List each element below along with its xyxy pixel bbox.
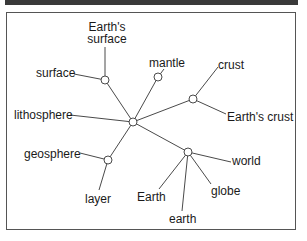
crust-node <box>189 95 197 103</box>
label-earth: earth <box>169 213 196 225</box>
edge-hub-geosphere <box>108 122 133 160</box>
label-earths-surface-line2: surface <box>84 33 130 45</box>
edge-geosphere-layer <box>99 160 108 190</box>
edge-hub-mantle <box>133 77 158 122</box>
edge-hub-lithosphere <box>70 115 133 122</box>
edge-earth-Earth <box>159 152 188 189</box>
label-layer: layer <box>85 193 111 205</box>
label-earths-crust: Earth's crust <box>227 111 293 123</box>
label-earths-surface: Earth's surface <box>84 21 130 45</box>
label-geosphere: geosphere <box>24 148 81 160</box>
label-crust: crust <box>218 59 244 71</box>
edge-hub-earth <box>133 122 188 152</box>
hub-node <box>129 118 137 126</box>
label-world: world <box>232 155 261 167</box>
edge-hub-crust <box>133 99 193 122</box>
surface-node <box>101 76 109 84</box>
label-mantle: mantle <box>149 57 185 69</box>
earth-node <box>184 148 192 156</box>
label-globe: globe <box>211 185 240 197</box>
label-lithosphere: lithosphere <box>14 109 73 121</box>
geosphere-node <box>104 156 112 164</box>
edge-earth-earth <box>182 152 188 211</box>
label-Earth: Earth <box>137 191 166 203</box>
edge-crust-crust <box>193 67 218 99</box>
label-surface: surface <box>36 67 75 79</box>
edge-surface-surface <box>74 74 105 80</box>
mantle-node <box>154 73 162 81</box>
edge-hub-surface <box>105 80 133 122</box>
edge-crust-earths-crust <box>193 99 226 114</box>
